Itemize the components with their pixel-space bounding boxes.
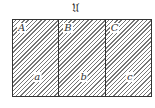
region-label-upper: B (63, 23, 72, 33)
region-label-lower: c (126, 72, 134, 82)
region-b: B b (58, 20, 104, 96)
region-label-lower: b (79, 72, 87, 82)
region-label-upper: C (110, 23, 120, 33)
region-label-upper: A (17, 23, 26, 33)
region-c: C c (105, 20, 151, 96)
region-a: A a (13, 20, 58, 96)
universe-title: 𝔘 (72, 2, 79, 15)
partition-diagram: A a B b C c (12, 19, 152, 97)
region-label-lower: a (33, 72, 41, 82)
